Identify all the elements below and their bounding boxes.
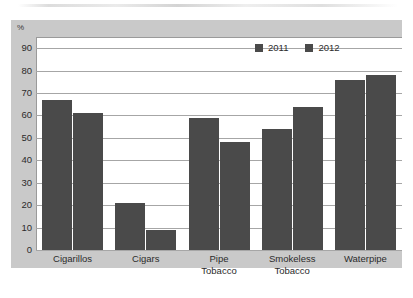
y-axis-tick-label: 30 [21, 178, 32, 188]
bar [42, 100, 72, 250]
legend-swatch-icon [255, 44, 263, 52]
legend-swatch-icon [305, 44, 313, 52]
bar [220, 142, 250, 250]
y-axis-tick-label: 80 [21, 66, 32, 76]
bar [335, 80, 365, 250]
y-axis-tick-label: 70 [21, 88, 32, 98]
gridline: 0 [36, 250, 402, 251]
bar [293, 107, 323, 250]
bar [189, 118, 219, 250]
scan-artifact-streak [18, 4, 398, 7]
y-axis-tick-label: 40 [21, 156, 32, 166]
y-axis-tick-label: 20 [21, 200, 32, 210]
bar-series-layer [36, 37, 402, 250]
legend-item: 2012 [305, 43, 339, 53]
bar [73, 113, 103, 250]
legend-label: 2011 [268, 43, 288, 53]
x-axis-category-label: Cigars [109, 253, 182, 265]
legend-label: 2012 [318, 43, 339, 53]
bar [262, 129, 292, 250]
x-axis-category-labels: CigarillosCigarsPipe TobaccoSmokeless To… [36, 253, 402, 293]
x-axis-category-label: Waterpipe [329, 253, 402, 265]
y-axis-tick-label: 10 [21, 223, 32, 233]
legend-item: 2011 [255, 43, 288, 53]
bar [146, 230, 176, 250]
y-axis-tick-label: 50 [21, 133, 32, 143]
y-axis-tick-label: 90 [21, 43, 32, 53]
x-axis-category-label: Cigarillos [36, 253, 109, 265]
bar [115, 203, 145, 250]
bar [366, 75, 396, 250]
chart-legend: 20112012 [255, 43, 340, 53]
x-axis-category-label: Smokeless Tobacco [256, 253, 329, 276]
bar-chart-figure: % 0102030405060708090 20112012 Cigarillo… [0, 0, 413, 298]
y-axis-tick-label: 0 [27, 245, 32, 255]
y-axis-tick-label: 60 [21, 111, 32, 121]
x-axis-category-label: Pipe Tobacco [182, 253, 255, 276]
y-axis-unit-label: % [17, 23, 24, 32]
